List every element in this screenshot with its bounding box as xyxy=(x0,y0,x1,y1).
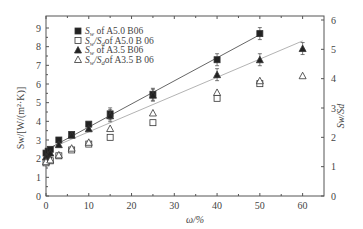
data-point xyxy=(214,95,220,101)
x-tick-label: 0 xyxy=(44,200,49,211)
data-point xyxy=(75,56,82,63)
data-point xyxy=(107,134,113,140)
data-point xyxy=(149,109,156,116)
x-tick-label: 20 xyxy=(127,200,137,211)
data-point xyxy=(214,71,221,78)
data-point xyxy=(299,45,306,52)
y-right-tick-label: 0 xyxy=(331,191,336,202)
chart-canvas: 010203040506001234567890123456ω/%Sw/[W/(… xyxy=(0,0,363,229)
scatter-chart: 010203040506001234567890123456ω/%Sw/[W/(… xyxy=(0,0,363,229)
y-left-tick-label: 8 xyxy=(36,41,41,52)
y-right-tick-label: 1 xyxy=(331,161,336,172)
y-left-tick-label: 3 xyxy=(36,135,41,146)
y-left-tick-label: 9 xyxy=(36,23,41,34)
y-left-tick-label: 1 xyxy=(36,172,41,183)
data-point xyxy=(299,72,306,79)
y-left-tick-label: 0 xyxy=(36,191,41,202)
data-point xyxy=(75,38,81,44)
data-point xyxy=(150,120,156,126)
data-point xyxy=(107,125,114,132)
x-axis-label: ω/% xyxy=(186,214,204,225)
data-point xyxy=(214,57,220,63)
y-left-tick-label: 7 xyxy=(36,60,41,71)
data-point xyxy=(214,89,221,96)
y-right-tick-label: 5 xyxy=(331,44,336,55)
x-tick-label: 40 xyxy=(212,200,222,211)
data-point xyxy=(75,28,81,34)
x-tick-label: 10 xyxy=(84,200,94,211)
x-tick-label: 30 xyxy=(169,200,179,211)
y-right-axis-label: Sw/Sd xyxy=(335,103,346,128)
x-tick-label: 50 xyxy=(255,200,265,211)
data-point xyxy=(75,47,82,54)
y-left-axis-label: Sw/[W/(m²·K)] xyxy=(15,87,27,149)
y-right-tick-label: 2 xyxy=(331,132,336,143)
legend-label: Sw/Sdof A3.5 B 06 xyxy=(85,55,154,66)
y-right-tick-label: 4 xyxy=(331,73,336,84)
y-left-tick-label: 2 xyxy=(36,153,41,164)
data-point xyxy=(257,31,263,37)
x-tick-label: 60 xyxy=(298,200,308,211)
y-right-tick-label: 6 xyxy=(331,15,336,26)
y-left-tick-label: 6 xyxy=(36,79,41,90)
y-left-tick-label: 5 xyxy=(36,97,41,108)
y-left-tick-label: 4 xyxy=(36,116,41,127)
data-point xyxy=(256,56,263,63)
